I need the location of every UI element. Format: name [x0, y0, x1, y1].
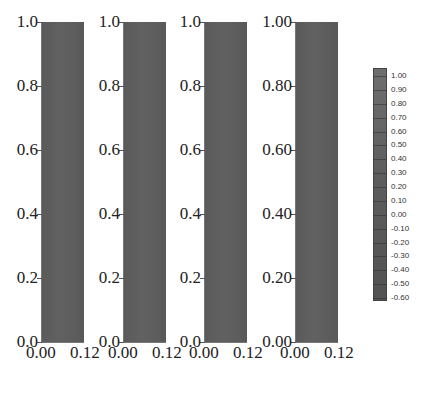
colorbar-tick-label: -0.20: [391, 239, 409, 247]
y-tick-label: 0.60: [252, 141, 292, 158]
y-tick-label: 0.6: [0, 141, 38, 158]
colorbar-tick: [373, 118, 387, 119]
y-tick-label: 1.0: [80, 13, 120, 30]
colorbar-tick: [373, 270, 387, 271]
colorbar-tick: [373, 201, 387, 202]
colorbar-tick: [373, 256, 387, 257]
colorbar-tick: [373, 159, 387, 160]
y-tick-label: 0.8: [161, 77, 201, 94]
colorbar-tick: [373, 298, 387, 299]
y-tick-label: 1.00: [252, 13, 292, 30]
x-tick-label: 0.00: [108, 344, 138, 361]
colorbar-tick: [373, 284, 387, 285]
y-tick-label: 0.4: [80, 205, 120, 222]
y-tick-label: 0.2: [80, 269, 120, 286]
colorbar-tick-label: 0.40: [391, 155, 407, 163]
y-axis: [295, 22, 296, 342]
colorbar-tick: [373, 173, 387, 174]
colorbar-tick: [373, 90, 387, 91]
heatmap-panel-1: [42, 22, 84, 342]
heatmap-panel-4: [296, 22, 338, 342]
colorbar-tick-label: -0.60: [391, 294, 409, 302]
colorbar-tick-label: 0.70: [391, 114, 407, 122]
y-axis: [123, 22, 124, 342]
colorbar-tick: [373, 243, 387, 244]
colorbar-tick-label: 0.00: [391, 211, 407, 219]
colorbar-tick: [373, 132, 387, 133]
colorbar-tick-label: -0.30: [391, 252, 409, 260]
colorbar-tick-label: -0.40: [391, 266, 409, 274]
colorbar-tick-label: 0.10: [391, 197, 407, 205]
heatmap-field: [42, 22, 84, 342]
y-axis: [204, 22, 205, 342]
y-tick-label: 1.0: [161, 13, 201, 30]
colorbar-tick-label: 0.20: [391, 183, 407, 191]
y-tick-label: 0.4: [161, 205, 201, 222]
x-tick-label: 0.00: [189, 344, 219, 361]
colorbar-tick-label: -0.10: [391, 225, 409, 233]
y-axis: [41, 22, 42, 342]
colorbar-tick: [373, 76, 387, 77]
colorbar-tick-label: 0.60: [391, 128, 407, 136]
y-tick-label: 0.8: [0, 77, 38, 94]
y-tick-label: 0.6: [80, 141, 120, 158]
y-tick-label: 1.0: [0, 13, 38, 30]
y-tick-label: 0.20: [252, 269, 292, 286]
heatmap-field: [124, 22, 166, 342]
heatmap-field: [296, 22, 338, 342]
x-tick-label: 0.00: [280, 344, 310, 361]
y-tick-label: 0.2: [0, 269, 38, 286]
x-tick-label: 0.12: [324, 344, 354, 361]
colorbar-tick: [373, 215, 387, 216]
colorbar-tick: [373, 229, 387, 230]
colorbar-tick-label: 1.00: [391, 72, 407, 80]
colorbar-tick-label: 0.80: [391, 100, 407, 108]
heatmap-panel-2: [124, 22, 166, 342]
colorbar-tick: [373, 187, 387, 188]
colorbar-tick-label: 0.30: [391, 169, 407, 177]
y-tick-label: 0.2: [161, 269, 201, 286]
colorbar-tick-label: -0.50: [391, 280, 409, 288]
y-tick-label: 0.4: [0, 205, 38, 222]
colorbar-tick-label: 0.50: [391, 141, 407, 149]
y-tick-label: 0.80: [252, 77, 292, 94]
y-tick-label: 0.8: [80, 77, 120, 94]
heatmap-panel-3: [205, 22, 247, 342]
y-tick-label: 0.40: [252, 205, 292, 222]
x-tick-label: 0.00: [26, 344, 56, 361]
heatmap-field: [205, 22, 247, 342]
colorbar-tick-label: 0.90: [391, 86, 407, 94]
colorbar-tick: [373, 104, 387, 105]
y-tick-label: 0.6: [161, 141, 201, 158]
colorbar-tick: [373, 145, 387, 146]
